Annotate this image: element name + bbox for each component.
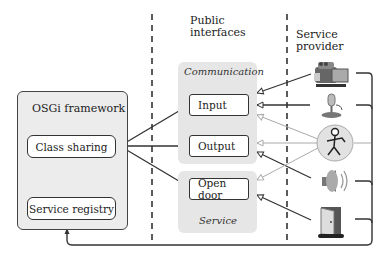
service-provider-heading: Service provider [296, 29, 385, 52]
door-icon [314, 205, 348, 239]
microphone-icon [318, 93, 346, 121]
input-interface: Input [189, 94, 249, 116]
service-registry-box: Service registry [27, 197, 116, 220]
person-icon [315, 123, 357, 163]
open-door-interface: Open door [189, 178, 249, 200]
output-interface: Output [189, 135, 249, 157]
speaker-icon [316, 168, 356, 196]
communication-title: Communication [184, 66, 264, 77]
framework-title: OSGi framework [32, 103, 125, 115]
heading-line-2: interfaces [190, 27, 246, 39]
public-interfaces-heading: Public interfaces [190, 15, 246, 38]
camcorder-icon [312, 59, 356, 89]
class-sharing-box: Class sharing [27, 135, 116, 158]
heading-line-1: Public [190, 15, 246, 27]
service-title: Service [199, 215, 237, 226]
